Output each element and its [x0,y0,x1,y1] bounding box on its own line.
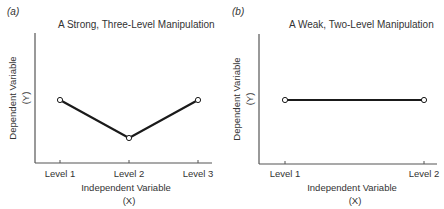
data-point-marker [57,97,62,102]
data-point-marker [282,97,287,102]
x-tick-label: Level 3 [183,168,214,179]
x-tick-label: Level 2 [409,168,440,179]
y-axis-sublabel-b: (Y) [244,93,255,106]
data-line-a [60,100,198,138]
y-axis-label-b: Dependent Variable [231,57,242,140]
chart-panel-b: (b) A Weak, Two-Level Manipulation Depen… [222,0,444,209]
y-axis-label-a: Dependent Variable [7,56,18,139]
data-point-marker [126,135,131,140]
x-axis-label-a: Independent Variable [81,182,171,193]
data-point-marker [195,97,200,102]
x-axis-label-b: Independent Variable [307,182,397,193]
x-tick-label: Level 1 [45,168,76,179]
y-axis-sublabel-a: (Y) [20,92,31,105]
data-point-marker [421,97,426,102]
x-tick-label: Level 2 [114,168,145,179]
x-axis-sublabel-b: (X) [349,195,362,206]
x-tick-label: Level 1 [270,168,301,179]
x-axis-sublabel-a: (X) [123,195,136,206]
chart-panel-a: (a) A Strong, Three-Level Manipulation D… [0,0,222,209]
